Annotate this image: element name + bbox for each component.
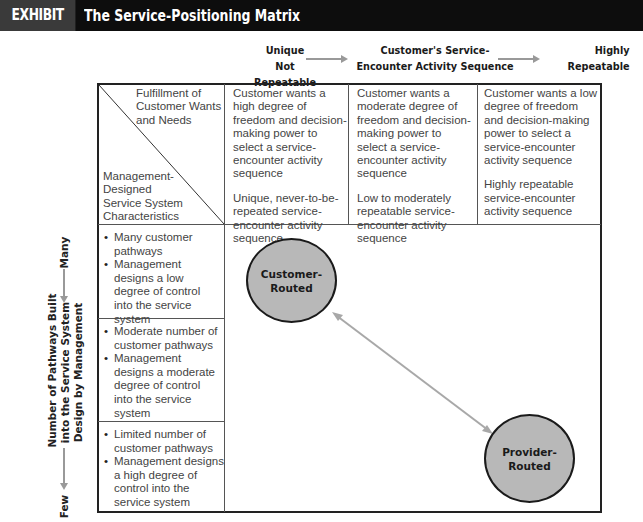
customer-routed-line2: Routed: [270, 282, 312, 294]
customer-routed-node: Customer- Routed: [246, 238, 337, 323]
column-2-wants: Customer wants a moderate degree of free…: [357, 87, 473, 181]
corner-top-line1: Fulfillment of: [136, 87, 224, 100]
row-1-pathways: Many customer pathways: [104, 231, 222, 258]
corner-bottom-line1: Management-: [103, 170, 213, 183]
row-3-pathways: Limited number of customer pathways: [104, 428, 226, 455]
provider-routed-label: Provider- Routed: [502, 445, 557, 473]
column-header-2: Customer wants a moderate degree of free…: [357, 87, 473, 245]
corner-bottom-line4: Characteristics: [103, 210, 213, 223]
row-header-3: Limited number of customer pathways Mana…: [104, 428, 226, 510]
corner-bottom-line2: Designed: [103, 183, 213, 196]
column-1-wants: Customer wants a high degree of freedom …: [233, 87, 348, 181]
customer-routed-line1: Customer-: [261, 268, 322, 280]
column-header-1: Customer wants a high degree of freedom …: [233, 87, 348, 245]
corner-bottom-line3: Service System: [103, 197, 213, 210]
row-2-pathways: Moderate number of customer pathways: [104, 325, 222, 352]
customer-routed-label: Customer- Routed: [261, 267, 322, 295]
row-2-control: Management designs a moderate degree of …: [104, 352, 222, 420]
corner-top-line2: Customer Wants: [136, 100, 224, 113]
provider-routed-node: Provider- Routed: [484, 414, 575, 503]
column-header-3: Customer wants a low degree of freedom a…: [484, 87, 598, 219]
row-header-1: Many customer pathways Management design…: [104, 231, 222, 326]
corner-bottom-label: Management- Designed Service System Char…: [103, 170, 213, 224]
provider-routed-line2: Routed: [508, 460, 550, 472]
column-3-sequence: Highly repeatable service-encounter acti…: [484, 178, 598, 218]
corner-top-label: Fulfillment of Customer Wants and Needs: [136, 87, 224, 127]
column-3-wants: Customer wants a low degree of freedom a…: [484, 87, 598, 167]
corner-top-line3: and Needs: [136, 114, 224, 127]
provider-routed-line1: Provider-: [502, 446, 557, 458]
row-header-2: Moderate number of customer pathways Man…: [104, 325, 222, 420]
connector-arrow-line: [337, 316, 488, 430]
row-1-control: Management designs a low degree of contr…: [104, 258, 222, 326]
column-2-sequence: Low to moderately repeatable service-enc…: [357, 192, 473, 246]
row-3-control: Management designs a high degree of cont…: [104, 455, 226, 509]
